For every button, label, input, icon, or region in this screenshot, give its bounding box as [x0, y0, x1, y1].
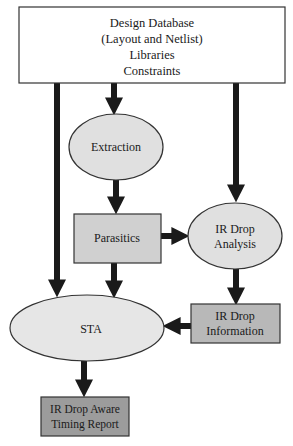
node-ir-drop-information: IR Drop Information [191, 304, 280, 343]
ir-drop-information-line-2: Information [206, 324, 263, 338]
design-database-line-4: Constraints [124, 64, 181, 78]
design-database-line-1: Design Database [110, 16, 195, 30]
ir-drop-analysis-line-1: IR Drop [215, 222, 255, 236]
ir-drop-analysis-line-2: Analysis [214, 237, 256, 251]
sta-label: STA [80, 322, 102, 336]
timing-report-line-1: IR Drop Aware [50, 403, 120, 416]
parasitics-label: Parasitics [94, 231, 140, 245]
flow-diagram: Design Database (Layout and Netlist) Lib… [0, 0, 293, 446]
node-ir-drop-analysis: IR Drop Analysis [188, 203, 282, 269]
extraction-label: Extraction [91, 140, 141, 154]
ir-drop-information-line-1: IR Drop [215, 309, 255, 323]
design-database-line-3: Libraries [129, 48, 174, 62]
node-sta: STA [10, 295, 164, 361]
design-database-line-2: (Layout and Netlist) [101, 32, 202, 46]
timing-report-line-2: Timing Report [51, 418, 119, 431]
node-design-database: Design Database (Layout and Netlist) Lib… [19, 7, 285, 83]
node-extraction: Extraction [69, 114, 163, 180]
node-parasitics: Parasitics [74, 214, 161, 263]
node-ir-drop-aware-timing-report: IR Drop Aware Timing Report [41, 397, 129, 436]
